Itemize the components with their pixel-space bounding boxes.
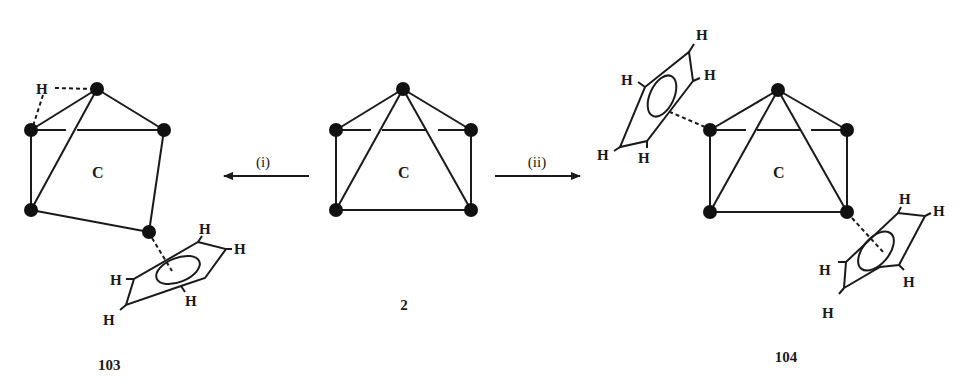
vertex <box>157 123 171 137</box>
vertex <box>771 83 785 97</box>
ch-bond <box>120 305 126 310</box>
h-label: H <box>234 241 246 257</box>
benzene-ring-lower: H H H H H <box>819 191 945 321</box>
bridging-h-bond <box>33 95 43 126</box>
h-label: H <box>704 67 716 83</box>
h-label: H <box>696 27 708 43</box>
ch-bond <box>689 44 694 52</box>
vertex <box>24 123 38 137</box>
h-label: H <box>103 312 115 328</box>
h-label: H <box>185 293 197 309</box>
step-label: (i) <box>256 154 270 171</box>
vertex <box>142 225 156 239</box>
bond <box>336 89 403 210</box>
h-label: H <box>822 305 834 321</box>
benzene-ring: H H H H H <box>103 221 246 328</box>
compound-2: C 2 <box>329 82 478 313</box>
pi-interaction <box>670 112 705 127</box>
h-label: H <box>621 72 633 88</box>
ch-bond <box>638 82 645 87</box>
benzene-ring-upper: H H H H H <box>597 27 716 166</box>
h-label: H <box>933 203 945 219</box>
compound-104: C H H H H H H H <box>597 27 945 365</box>
vertex <box>840 205 854 219</box>
compound-label: 103 <box>98 357 121 373</box>
ch-bond <box>925 213 931 216</box>
bond <box>403 89 471 130</box>
bond <box>778 90 847 212</box>
bridging-h-bond <box>55 88 94 89</box>
bond <box>31 210 149 232</box>
bond <box>149 130 164 232</box>
ch-bond <box>839 288 844 294</box>
ring-outline <box>620 52 693 147</box>
compound-label: 104 <box>775 349 798 365</box>
h-label: H <box>597 147 609 163</box>
h-label: H <box>819 262 831 278</box>
core-label: C <box>773 164 785 181</box>
ch-bond <box>899 265 904 270</box>
step-label: (ii) <box>528 154 546 171</box>
vertex <box>396 82 410 96</box>
ch-bond <box>898 207 901 213</box>
bond <box>31 89 97 210</box>
core-label: C <box>398 164 410 181</box>
ring-circle <box>642 71 682 121</box>
vertex <box>464 203 478 217</box>
bridging-h-label: H <box>36 81 48 97</box>
vertex <box>90 82 104 96</box>
bond <box>403 89 471 210</box>
vertex <box>464 123 478 137</box>
reaction-arrow-i: (i) <box>224 154 309 176</box>
bond <box>336 89 403 130</box>
reaction-arrow-ii: (ii) <box>495 154 580 176</box>
ch-bond <box>181 286 185 292</box>
h-label: H <box>903 274 915 290</box>
h-label: H <box>899 191 911 207</box>
bond <box>710 90 778 212</box>
ring-circle <box>152 250 204 289</box>
h-label: H <box>638 150 650 166</box>
h-label: H <box>110 272 122 288</box>
bond <box>97 89 164 130</box>
ch-bond <box>693 78 700 81</box>
pi-interaction <box>852 218 884 253</box>
vertex <box>24 203 38 217</box>
ch-bond <box>614 147 620 151</box>
vertex <box>840 123 854 137</box>
ring-outline <box>126 242 226 305</box>
vertex <box>703 123 717 137</box>
compound-label: 2 <box>400 297 408 313</box>
vertex <box>329 123 343 137</box>
vertex <box>329 203 343 217</box>
compound-103: H C H H H H H 103 <box>24 81 246 373</box>
h-label: H <box>199 221 211 237</box>
core-label: C <box>92 164 104 181</box>
reaction-scheme: H C H H H H H 103 (i) <box>0 0 973 388</box>
vertex <box>703 205 717 219</box>
